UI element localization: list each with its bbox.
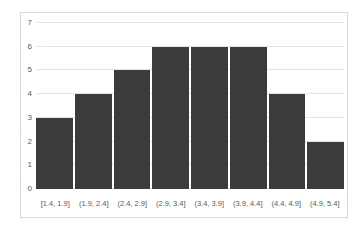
bar-(3.9, 4.4] [230,47,267,189]
x-tick-label: (4.4, 4.9] [267,198,306,210]
x-tick-label: (3.4, 3.9] [190,198,229,210]
y-tick-label: 3 [28,114,32,122]
y-tick-label: 1 [28,161,32,169]
y-tick-label: 4 [28,90,32,98]
bar-(4.9, 5.4] [307,142,344,189]
x-axis: [1.4, 1.9](1.9, 2.4](2.4, 2.9](2.9, 3.4]… [36,198,344,210]
y-tick-label: 7 [28,19,32,27]
plot-area [36,23,344,189]
x-tick-label: (1.9, 2.4] [75,198,114,210]
y-tick-label: 0 [28,185,32,193]
bars [36,23,344,189]
x-tick-label: (2.4, 2.9] [113,198,152,210]
bar-(1.9, 2.4] [75,94,112,189]
y-tick-label: 5 [28,66,32,74]
bar-[1.4, 1.9] [36,118,73,189]
x-tick-label: [1.4, 1.9] [36,198,75,210]
bar-(2.9, 3.4] [152,47,189,189]
x-tick-label: (2.9, 3.4] [152,198,191,210]
y-axis: 01234567 [21,23,33,189]
bar-(3.4, 3.9] [191,47,228,189]
bar-(2.4, 2.9] [114,70,151,189]
bar-(4.4, 4.9] [269,94,306,189]
y-tick-label: 6 [28,43,32,51]
y-tick-label: 2 [28,138,32,146]
x-tick-label: (3.9, 4.4] [229,198,268,210]
x-tick-label: (4.9, 5.4] [306,198,345,210]
histogram-chart: 01234567 [1.4, 1.9](1.9, 2.4](2.4, 2.9](… [20,12,348,218]
